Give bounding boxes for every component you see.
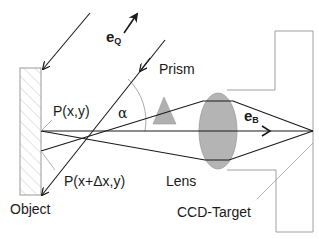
- eb-vector-label: eB: [244, 108, 259, 125]
- point-a-leader: [41, 120, 52, 131]
- illumination-ray-1: [43, 13, 90, 69]
- object-label: Object: [10, 202, 50, 216]
- object-block: [20, 68, 41, 195]
- ccd-target-leader: [257, 143, 313, 199]
- lens-label: Lens: [166, 174, 196, 188]
- ccd-target-label: CCD-Target: [177, 205, 251, 219]
- point-b-label: P(x+Δx,y): [64, 174, 125, 188]
- point-a-label: P(x,y): [53, 104, 90, 118]
- angle-alpha-label: α: [118, 106, 127, 120]
- eq-vector-label: eQ: [106, 29, 121, 46]
- illumination-ray-2-arrow: [140, 58, 150, 71]
- eq-vector-arrow: [124, 14, 137, 33]
- point-b-leader: [41, 151, 55, 170]
- prism-label: Prism: [159, 62, 195, 76]
